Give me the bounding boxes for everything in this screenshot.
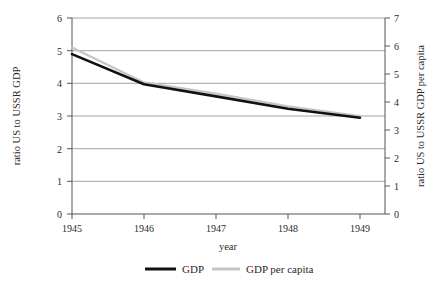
x-tick-label: 1946: [134, 223, 154, 234]
y2-tick-label: 5: [394, 69, 399, 80]
y2-axis-title: ratio US to USSR GDP per capita: [415, 45, 426, 187]
legend-label-gdp-per-capita: GDP per capita: [246, 263, 314, 275]
legend-label-gdp: GDP: [182, 263, 204, 275]
y-axis-title: ratio US to USSR GDP: [11, 67, 22, 166]
y-tick-label: 6: [57, 13, 62, 24]
chart-figure: 6 5 4 3 2 1 0 7 6 5 4 3 2 1 0: [0, 0, 440, 287]
y-tick-label: 0: [57, 209, 62, 220]
y2-tick-label: 4: [394, 97, 399, 108]
x-tick-label: 1949: [350, 223, 370, 234]
x-tick-label: 1945: [62, 223, 82, 234]
y-tick-label: 3: [57, 111, 62, 122]
y-tick-label: 4: [57, 78, 62, 89]
y2-tick-label: 0: [394, 209, 399, 220]
line-chart: 6 5 4 3 2 1 0 7 6 5 4 3 2 1 0: [0, 0, 440, 287]
y2-tick-label: 7: [394, 13, 399, 24]
x-tick-label: 1947: [206, 223, 226, 234]
y2-tick-label: 2: [394, 153, 399, 164]
y2-tick-label: 6: [394, 41, 399, 52]
y-tick-label: 5: [57, 46, 62, 57]
y-tick-label: 1: [57, 176, 62, 187]
x-axis-title: year: [219, 241, 238, 252]
y-tick-label: 2: [57, 144, 62, 155]
x-tick-label: 1948: [278, 223, 298, 234]
y2-tick-label: 1: [394, 181, 399, 192]
y2-tick-label: 3: [394, 125, 399, 136]
